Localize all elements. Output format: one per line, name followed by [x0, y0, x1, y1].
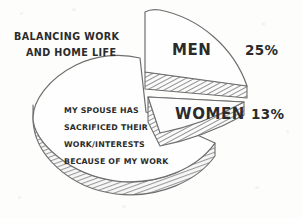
slice-annotation-line-3: WORK/INTERESTS — [64, 140, 145, 149]
slice-annotation-line-1: MY SPOUSE HAS — [64, 106, 139, 115]
paper-speckle — [286, 130, 289, 133]
paper-speckle — [122, 205, 126, 208]
pie-slice-men-label: MEN — [172, 41, 212, 59]
chart-title: BALANCING WORK AND HOME LIFE — [14, 31, 119, 58]
paper-speckle — [262, 22, 265, 26]
paper-speckle — [20, 12, 23, 15]
slice-annotation-line-4: BECAUSE OF MY WORK — [64, 157, 169, 166]
pie-chart-figure: BALANCING WORK AND HOME LIFE MY SPOUSE H… — [0, 0, 302, 219]
pie-slice-women-percent: 13% — [251, 106, 284, 122]
chart-title-line-1: BALANCING WORK — [14, 31, 119, 42]
chart-title-line-2: AND HOME LIFE — [26, 47, 116, 58]
pie-slice-men-percent: 25% — [245, 42, 278, 58]
paper-speckle — [18, 196, 21, 199]
slice-annotation-line-2: SACRIFICED THEIR — [64, 123, 148, 132]
pie-slice-women-label: WOMEN — [175, 105, 245, 123]
paper-speckle — [255, 186, 259, 189]
paper-speckle — [72, 8, 76, 11]
